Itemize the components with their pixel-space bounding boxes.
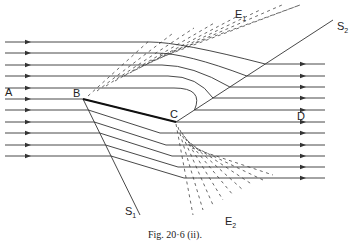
- wavefront-e2-2: [178, 127, 203, 210]
- label-e2: E2: [225, 215, 236, 229]
- arrowhead-out-10: [300, 165, 306, 169]
- arrowhead-out-9: [300, 154, 306, 158]
- label-s2: S2: [337, 20, 348, 34]
- face-bc: [83, 99, 176, 122]
- ray-8: [5, 122, 325, 145]
- label-b: B: [73, 87, 80, 99]
- label-a: A: [5, 86, 13, 98]
- arrowhead-in-3: [25, 63, 31, 67]
- arrowhead-out-8: [300, 143, 306, 147]
- surface-s2: [176, 20, 333, 122]
- arrowhead-in-5: [25, 86, 31, 90]
- arrowhead-in-9: [25, 131, 31, 135]
- surface-s1: [83, 99, 140, 215]
- arrowhead-in-6: [25, 97, 31, 101]
- label-s1: S1: [125, 205, 136, 219]
- figure-caption: Fig. 20·6 (ii).: [148, 229, 202, 241]
- arrowhead-in-11: [25, 154, 31, 158]
- arrowhead-in-1: [25, 40, 31, 44]
- arrowhead-out-4: [300, 96, 306, 100]
- wavefront-group-e1: [88, 5, 300, 96]
- diagram-canvas: A B C D E1 E2 S1 S2 Fig. 20·6 (ii).: [0, 0, 360, 242]
- arrowhead-out-11: [300, 176, 306, 180]
- wavefront-e2-3: [180, 130, 213, 205]
- arrowhead-in-10: [25, 143, 31, 147]
- wavefront-group-e2: [176, 124, 273, 215]
- arrowhead-in-8: [25, 120, 31, 124]
- label-c: C: [170, 108, 178, 120]
- ray-7: [5, 110, 325, 133]
- arrowhead-out-2: [300, 74, 306, 78]
- arrowhead-out-7: [300, 131, 306, 135]
- label-d: D: [297, 110, 305, 122]
- wavefront-e1-4: [115, 22, 216, 81]
- arrowhead-in-7: [25, 108, 31, 112]
- arrowhead-in-2: [25, 51, 31, 55]
- ray-group: [5, 42, 325, 178]
- arrowhead-out-3: [300, 85, 306, 89]
- arrowhead-out-1: [300, 62, 306, 66]
- wavefront-e2-1: [176, 124, 193, 215]
- arrowhead-in-4: [25, 74, 31, 78]
- label-e1: E1: [235, 8, 246, 22]
